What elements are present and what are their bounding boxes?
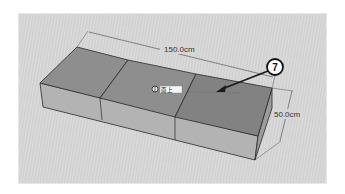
dimension-width-label: 50.0cm <box>274 110 301 119</box>
3d-scene[interactable]: 150.0cm 50.0cm 面上 7 <box>0 0 345 194</box>
callout-number: 7 <box>272 62 278 73</box>
dimension-length-label: 150.0cm <box>164 45 195 54</box>
cursor-tooltip-text: 面上 <box>161 86 173 94</box>
